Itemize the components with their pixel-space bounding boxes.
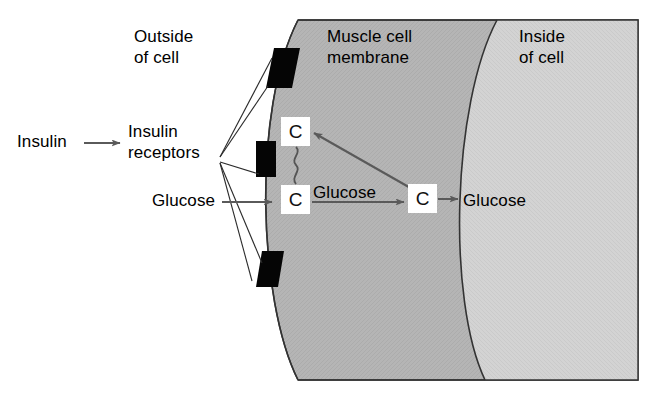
label-insulin-receptors: Insulin receptors xyxy=(128,121,200,163)
label-muscle-cell-membrane: Muscle cell membrane xyxy=(327,26,412,68)
label-outside-of-cell: Outside of cell xyxy=(134,26,193,68)
insulin-receptor-middle xyxy=(256,141,276,177)
label-insulin: Insulin xyxy=(17,131,67,152)
receptor-leader-line-middle xyxy=(220,162,259,174)
diagram-canvas: Outside of cell Insulin Insulin receptor… xyxy=(0,0,650,397)
receptor-leader-line-bottom xyxy=(220,163,262,263)
receptor-leader-line-bottom-b xyxy=(220,163,252,281)
carrier-box-bottom: C xyxy=(281,185,310,214)
label-glucose-inside: Glucose xyxy=(463,190,526,211)
carrier-box-top: C xyxy=(281,117,310,146)
label-glucose-outside: Glucose xyxy=(152,190,215,211)
carrier-box-inner: C xyxy=(408,184,437,213)
label-glucose-transport: Glucose xyxy=(313,182,376,203)
label-inside-of-cell: Inside of cell xyxy=(519,26,565,68)
